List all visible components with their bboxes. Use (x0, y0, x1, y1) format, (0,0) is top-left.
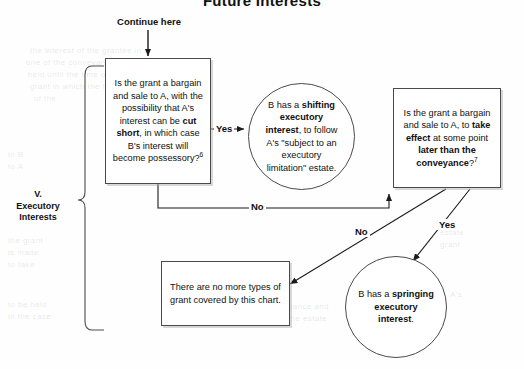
scan-artifact: to be held (8, 300, 47, 309)
continue-here-label: Continue here (86, 16, 212, 27)
scan-artifact: the interest of the grantee in a (30, 46, 149, 55)
section-brace (78, 66, 104, 330)
decision2-text-part-4-bold: later than the conveyance (416, 145, 476, 168)
outcome2-text-part-3: . (411, 314, 414, 324)
edge-no-decision1 (158, 184, 389, 208)
edge-label-yes-2: Yes (437, 219, 457, 230)
terminal-node-no-more-types[interactable]: There are no more types of grant covered… (161, 261, 290, 326)
page-title: Future Interests (0, 0, 524, 9)
edge-label-yes-1: Yes (214, 123, 234, 134)
edge-label-no-2: No (353, 226, 370, 237)
decision2-footnote-marker: 7 (474, 156, 478, 163)
decision-node-bargain-sale-cut-short[interactable]: Is the grant a bargain and sale to A, wi… (105, 58, 211, 184)
section-label-line-3: Interests (19, 212, 57, 222)
flowchart-page: the interest of the grantee in a one of … (0, 0, 524, 369)
decision-node-bargain-sale-take-effect-later[interactable]: Is the grant a bargain and sale to A, to… (393, 88, 501, 188)
outcome-node-springing-executory-interest[interactable]: B has a springing executory interest. (345, 256, 447, 358)
terminal-text: There are no more types of grant covered… (170, 282, 281, 305)
outcome1-text-part-1: B has a (268, 100, 302, 110)
scan-artifact: the grant (8, 236, 43, 245)
decision2-text-part-3: at some point (430, 133, 488, 143)
scan-artifact: in the case (8, 312, 51, 321)
scan-artifact: A's (450, 290, 462, 299)
scan-artifact: is made (8, 248, 39, 257)
section-label-line-1: V. (34, 189, 42, 199)
section-label: V. Executory Interests (2, 189, 74, 224)
scan-artifact: of the (34, 94, 56, 103)
scan-artifact: in B (8, 150, 23, 159)
decision1-footnote-marker: 6 (200, 151, 204, 158)
scan-artifact: to take (8, 260, 35, 269)
edge-label-no-1: No (249, 201, 266, 212)
scan-artifact: grant (440, 240, 460, 249)
scan-artifact: to A (8, 162, 23, 171)
outcome-node-shifting-executory-interest[interactable]: B has a shifting executory interest, to … (248, 83, 355, 190)
section-label-line-2: Executory (16, 201, 60, 211)
outcome2-text-part-1: B has a (358, 289, 392, 299)
